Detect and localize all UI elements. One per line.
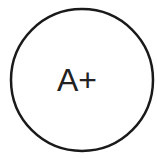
grade-label: A+ — [57, 62, 97, 98]
grade-badge: A+ — [0, 0, 157, 159]
